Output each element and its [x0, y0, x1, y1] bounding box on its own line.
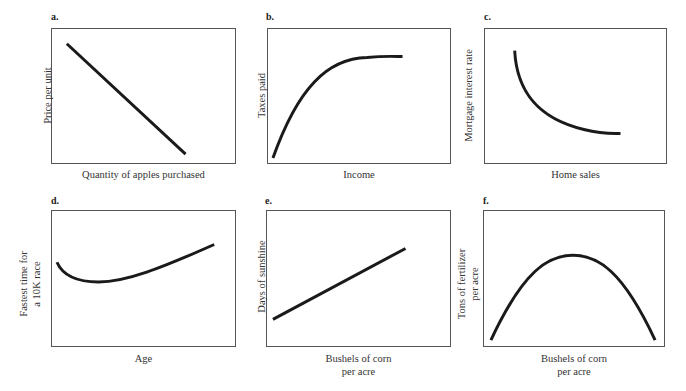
x-axis-label-line-2: per acre [342, 366, 376, 377]
y-axis-label: Taxes paid [255, 36, 268, 156]
x-axis-label-line-1: Bushels of corn [541, 353, 607, 364]
panel-label: d. [51, 195, 59, 206]
panel-label: b. [266, 11, 274, 22]
plot-area [484, 28, 667, 164]
panel-label: e. [265, 195, 272, 206]
curve-u-shaped [52, 211, 235, 346]
curve-inverted-u [484, 211, 664, 346]
y-axis-label: Price per unit [41, 36, 54, 156]
plot-area [483, 210, 665, 347]
plot-area [51, 28, 236, 164]
y-axis-label: Fastest time for a 10K race [17, 224, 43, 344]
x-axis-label: Income [267, 168, 451, 181]
x-axis-label: Bushels of corn per acre [266, 352, 451, 378]
y-axis-label-line-1: Fastest time for [18, 251, 29, 316]
curve-linear-increasing [267, 211, 450, 346]
curve-concave-increasing [268, 29, 450, 163]
plot-area [266, 210, 451, 347]
y-axis-label-line-2: per acre [469, 267, 480, 301]
y-axis-label-line-1: Tons of fertilizer [456, 249, 467, 319]
y-axis-label-line-2: a 10K race [31, 261, 42, 306]
x-axis-label: Home sales [484, 168, 667, 181]
panel-label: a. [51, 11, 59, 22]
panel-label: f. [483, 195, 489, 206]
x-axis-label: Age [51, 352, 236, 365]
x-axis-label: Quantity of apples purchased [51, 168, 236, 181]
y-axis-label: Tons of fertilizer per acre [455, 224, 481, 344]
curve-linear-decreasing [52, 29, 235, 163]
plot-area [267, 28, 451, 164]
plot-area [51, 210, 236, 347]
x-axis-label: Bushels of corn per acre [483, 352, 665, 378]
x-axis-label-line-2: per acre [557, 366, 591, 377]
y-axis-label: Days of sunshine [255, 217, 268, 337]
panel-label: c. [484, 11, 491, 22]
y-axis-label: Mortgage interest rate [462, 36, 475, 156]
curve-convex-decreasing [485, 29, 666, 163]
x-axis-label-line-1: Bushels of corn [326, 353, 392, 364]
